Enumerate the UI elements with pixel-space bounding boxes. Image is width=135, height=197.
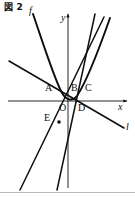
point-label-e: E [44, 113, 50, 123]
curve-label-f: f [29, 6, 32, 16]
point-marker-e [57, 120, 61, 124]
curve-label-l: l [126, 122, 129, 132]
figure-caption: 図 2 [4, 3, 23, 12]
x-axis-label: x [118, 102, 122, 112]
point-label-a: A [45, 83, 52, 93]
point-label-d: D [78, 103, 85, 113]
point-label-b: B [71, 83, 78, 93]
point-label-c: C [85, 83, 92, 93]
point-label-o: O [59, 103, 66, 113]
y-axis-label: y [61, 13, 65, 23]
line-l [9, 61, 124, 128]
figure-container: 図 2 f l x y A B C O D E [0, 0, 135, 197]
figure-graphic [0, 0, 135, 197]
